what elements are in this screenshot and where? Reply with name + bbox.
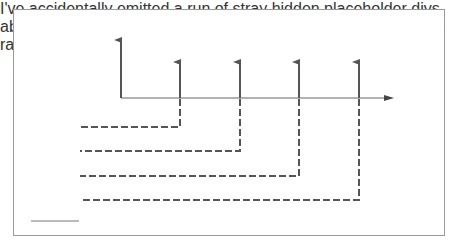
time-axis-arrowhead — [384, 95, 394, 101]
discount-path-1 — [80, 99, 180, 127]
timeline-graphic — [0, 0, 455, 246]
discount-path-4 — [80, 99, 359, 200]
discount-path-3 — [80, 99, 299, 176]
discount-path-2 — [80, 99, 240, 151]
